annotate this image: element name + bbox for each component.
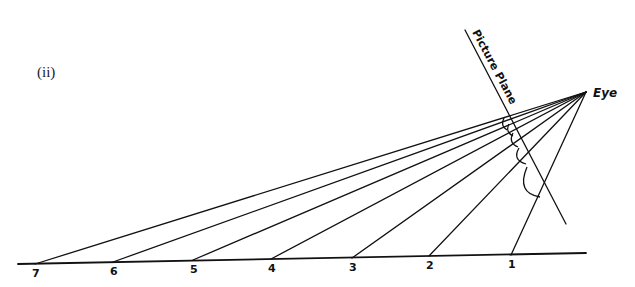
sight-rays [35, 92, 586, 264]
ground-point-label: 5 [190, 263, 198, 276]
perspective-diagram: (ii) Picture Plane Eye 7654321 [0, 0, 635, 287]
sight-ray-6 [113, 92, 586, 262]
picture-plane-label: Picture Plane [469, 27, 519, 106]
ground-point-label: 6 [110, 265, 118, 278]
sight-ray-3 [352, 92, 586, 258]
eye-label: Eye [593, 86, 617, 100]
ground-point-labels: 7654321 [32, 258, 516, 280]
angle-arcs [503, 118, 540, 197]
ground-point-label: 4 [268, 262, 276, 275]
sight-ray-5 [193, 92, 586, 260]
angle-arc [503, 118, 507, 130]
ground-line [18, 253, 586, 264]
ground-point-label: 2 [426, 259, 434, 272]
sight-ray-1 [511, 92, 586, 255]
picture-plane-line [465, 30, 566, 224]
ground-point-label: 3 [349, 261, 357, 274]
angle-arc [524, 167, 540, 197]
figure-label: (ii) [37, 64, 55, 81]
ground-point-label: 7 [32, 267, 40, 280]
ground-point-label: 1 [508, 258, 516, 271]
